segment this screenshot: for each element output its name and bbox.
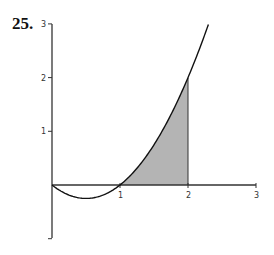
x-tick-label: 1 (118, 191, 123, 200)
function-plot: 123123 (0, 0, 274, 255)
shaded-area (120, 78, 188, 185)
x-tick-label: 2 (186, 191, 191, 200)
x-tick-label: 3 (254, 191, 259, 200)
axis-ticks: 123123 (41, 20, 259, 239)
y-tick-label: 1 (41, 127, 46, 136)
y-tick-label: 2 (41, 74, 46, 83)
y-tick-label: 3 (41, 20, 46, 29)
